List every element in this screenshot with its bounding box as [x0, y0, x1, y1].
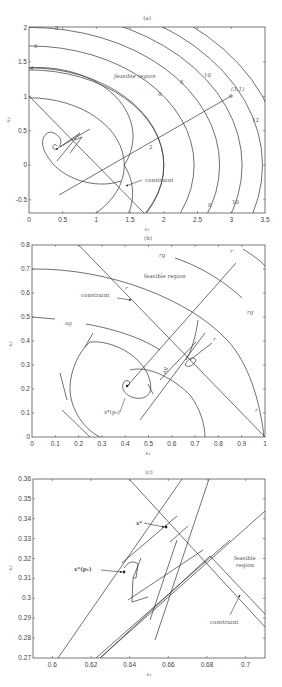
contour-2 — [29, 68, 133, 263]
svg-text:10: 10 — [204, 72, 211, 78]
diagonal-line-2 — [140, 333, 205, 420]
svg-text:0.8: 0.8 — [21, 241, 30, 248]
svg-text:0.64: 0.64 — [123, 661, 136, 668]
svg-text:0.2: 0.2 — [21, 385, 30, 392]
figure: (a) — [0, 0, 282, 687]
svg-text:0.66: 0.66 — [162, 661, 175, 668]
svg-text:0.6: 0.6 — [48, 661, 57, 668]
feasible-region-label: feasible region — [144, 273, 186, 280]
svg-text:0.29: 0.29 — [18, 614, 31, 621]
svg-text:0.4: 0.4 — [121, 440, 130, 447]
point-label: (3,1) — [231, 86, 244, 92]
svg-text:0.36: 0.36 — [18, 475, 31, 482]
contour-rg-2 — [243, 249, 265, 266]
contour-4 — [29, 68, 164, 263]
trajectory-seg-5 — [186, 320, 198, 360]
x-p0-label: x*(p₀) — [104, 409, 120, 416]
svg-text:r: r — [255, 407, 258, 413]
constraint-arrow — [117, 298, 131, 300]
svg-text:0.3: 0.3 — [22, 594, 31, 601]
svg-text:-0.5: -0.5 — [16, 196, 28, 203]
svg-text:2: 2 — [23, 24, 27, 31]
line-4 — [96, 540, 230, 658]
x-p1-marker — [123, 571, 126, 574]
feasible-region-label: feasible region — [113, 73, 156, 80]
panel-a-ylabel: x₂ — [5, 117, 11, 122]
contour-ag-2 — [86, 324, 160, 350]
panel-c: (c) x* x*(p₁) feasible region constraint — [7, 469, 265, 677]
svg-text:0.5: 0.5 — [21, 313, 30, 320]
x-star-arrow — [144, 523, 164, 527]
diagonal-line-1 — [128, 263, 236, 385]
svg-text:0.35: 0.35 — [18, 495, 31, 502]
svg-text:0: 0 — [26, 433, 30, 440]
svg-text:0.5: 0.5 — [58, 216, 67, 223]
trajectory-seg-3 — [62, 410, 90, 437]
svg-text:0.1: 0.1 — [21, 409, 30, 416]
panel-c-axes — [33, 479, 265, 658]
svg-text:0.31: 0.31 — [18, 574, 31, 581]
svg-text:1: 1 — [263, 440, 267, 447]
svg-text:0.33: 0.33 — [18, 535, 31, 542]
trajectory-seg-2 — [60, 373, 67, 400]
panel-b-xlabel: x₁ — [145, 450, 150, 456]
x-star-marker — [165, 526, 168, 529]
constraint-label: constraint — [81, 292, 110, 298]
constraint-arrow — [126, 180, 142, 186]
svg-text:0.2: 0.2 — [74, 440, 83, 447]
contour-ag-1 — [32, 317, 55, 319]
contour-c10 — [0, 11, 242, 319]
x-star-label: x* — [136, 520, 142, 526]
svg-text:0.7: 0.7 — [191, 440, 200, 447]
svg-text:0.5: 0.5 — [144, 440, 153, 447]
panel-b-ylabel: x₂ — [7, 341, 13, 346]
svg-text:3.5: 3.5 — [260, 216, 269, 223]
svg-text:2: 2 — [162, 216, 166, 223]
svg-text:0.1: 0.1 — [51, 440, 60, 447]
contour-c12 — [0, 0, 263, 334]
panel-a-xticks: 0 0.5 1 1.5 2 2.5 3 3.5 — [27, 27, 270, 223]
panel-c-ylabel: x₂ — [7, 565, 13, 570]
line-8 — [170, 526, 188, 542]
contour-c2 — [0, 98, 124, 233]
panel-c-xlabel: x₁ — [146, 671, 151, 677]
svg-text:8: 8 — [180, 79, 184, 85]
svg-text:0.5: 0.5 — [18, 127, 27, 134]
panel-a-title: (a) — [143, 15, 151, 21]
svg-text:8: 8 — [208, 202, 212, 208]
panel-a-xlabel: x₁ — [144, 226, 149, 232]
panel-c-yticks: 0.27 0.28 0.29 0.3 0.31 0.32 0.33 0.34 0… — [18, 475, 265, 661]
svg-text:r: r — [230, 248, 233, 254]
svg-text:3: 3 — [229, 216, 233, 223]
trajectory-segments — [57, 129, 90, 161]
svg-text:1.5: 1.5 — [18, 58, 27, 65]
svg-text:2: 2 — [149, 144, 153, 150]
svg-text:0.28: 0.28 — [18, 634, 31, 641]
x-p0-marker — [126, 385, 128, 387]
svg-text:r: r — [213, 336, 216, 342]
svg-text:8: 8 — [55, 25, 59, 31]
svg-text:0.6: 0.6 — [167, 440, 176, 447]
svg-text:6: 6 — [34, 43, 38, 49]
svg-text:0.68: 0.68 — [201, 661, 214, 668]
svg-text:2.5: 2.5 — [193, 216, 202, 223]
svg-text:0.34: 0.34 — [18, 515, 31, 522]
panel-c-title: (c) — [145, 469, 152, 475]
panel-b-title: (b) — [144, 235, 152, 241]
svg-text:0.3: 0.3 — [97, 440, 106, 447]
trajectory-seg-1 — [85, 333, 93, 347]
trajectory — [43, 132, 121, 184]
svg-text:1.5: 1.5 — [126, 216, 135, 223]
contour-r — [32, 269, 264, 437]
svg-text:0: 0 — [23, 161, 27, 168]
svg-text:aɡ: aɡ — [161, 366, 169, 374]
svg-text:0.27: 0.27 — [18, 654, 31, 661]
svg-text:1: 1 — [95, 216, 99, 223]
svg-text:8: 8 — [158, 91, 162, 97]
contour-ag-3 — [130, 369, 205, 437]
line-3 — [100, 511, 265, 658]
line-6 — [150, 540, 177, 620]
svg-text:aɡ: aɡ — [65, 320, 72, 327]
constraint-arrow — [230, 595, 240, 615]
panel-c-xticks: 0.6 0.62 0.64 0.66 0.68 0.7 — [48, 479, 251, 668]
